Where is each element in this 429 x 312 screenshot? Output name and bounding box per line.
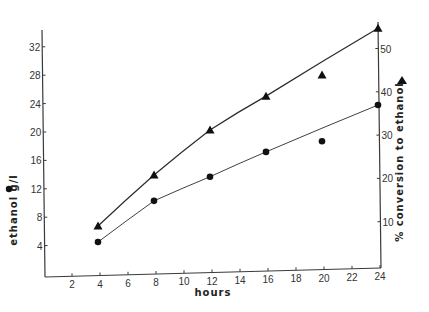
axes [42, 22, 381, 277]
y2-tick-label: 50 [380, 44, 392, 55]
y2-tick-label: 30 [381, 130, 393, 141]
circle-marker-icon [151, 198, 158, 205]
y-tick-label: 24 [30, 99, 42, 110]
x-axis-title: hours [195, 287, 232, 298]
x-tick-label: 10 [178, 276, 190, 287]
x-tick-label: 14 [234, 275, 246, 286]
left-y-axis-title: ethanol g/l [8, 174, 19, 246]
y-tick-label: 4 [37, 241, 43, 252]
y-tick-label: 32 [29, 42, 41, 53]
y-tick-label: 8 [37, 212, 43, 223]
x-tick-label: 24 [374, 271, 386, 282]
triangle-marker-icon [374, 24, 383, 32]
x-tick-label: 2 [69, 279, 75, 290]
circle-marker-icon [207, 173, 214, 180]
triangle-marker-icon [206, 125, 215, 133]
triangle-marker-icon [318, 70, 327, 78]
circle-marker-icon [263, 149, 270, 156]
y2-tick-label: 40 [381, 87, 393, 98]
y2-tick-label: 10 [382, 217, 394, 228]
circle-marker-icon [319, 138, 326, 145]
series-line-triangle [98, 28, 378, 226]
x-tick-label: 8 [153, 277, 159, 288]
left-legend-circle-icon [6, 186, 12, 192]
series-group [94, 24, 383, 246]
x-tick-label: 16 [262, 274, 274, 285]
right-y-axis-title: % conversion to ethanol [394, 82, 405, 241]
chart-canvas: 24681012141618202224 48121620242832 1020… [0, 0, 429, 312]
right-y-axis [378, 22, 381, 268]
series-line-circle [98, 105, 378, 242]
x-tick-label: 12 [206, 276, 218, 287]
x-tick-label: 20 [318, 273, 330, 284]
y-tick-label: 20 [30, 127, 42, 138]
x-tick-label: 18 [290, 273, 302, 284]
x-tick-label: 22 [346, 272, 358, 283]
triangle-marker-icon [262, 92, 271, 100]
x-tick-label: 4 [97, 279, 103, 290]
y2-tick-label: 20 [382, 173, 394, 184]
y-tick-label: 12 [31, 184, 43, 195]
y-tick-label: 28 [29, 70, 41, 81]
x-tick-label: 6 [125, 278, 131, 289]
right-legend-triangle-icon [397, 76, 407, 84]
circle-marker-icon [375, 102, 382, 109]
circle-marker-icon [95, 239, 102, 246]
y-tick-label: 16 [30, 155, 42, 166]
